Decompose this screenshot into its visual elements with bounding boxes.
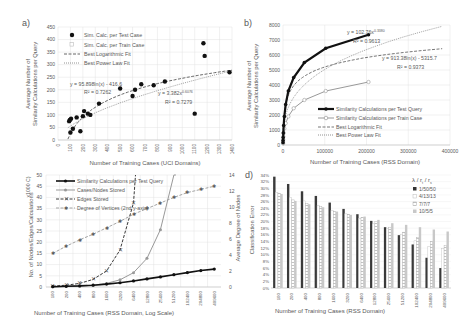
bar-10-5-5: [280, 194, 282, 288]
x-tick-label: 6400: [131, 290, 136, 300]
panel-label-d: d): [245, 170, 253, 180]
test-case-marker: [152, 83, 156, 87]
bar-4-13-13: [428, 246, 430, 288]
test-query-marker: [282, 124, 286, 128]
right-y-tick-label: 4: [229, 252, 232, 258]
bar-4-13-13: [414, 241, 416, 288]
test-case-marker: [81, 114, 85, 118]
y-tick-label: 0: [52, 137, 55, 143]
bar-10-5-5: [377, 220, 379, 288]
bar-1-50-50: [356, 214, 358, 288]
legend-label: Similarity Calculations per Test Query: [336, 106, 423, 112]
bar-10-5-5: [294, 201, 296, 288]
bar-7-7-7: [444, 245, 446, 288]
legend-label: Similarity Calculations per Test Query: [77, 178, 164, 184]
chart-b-power-r2: R² = 0.9613: [353, 38, 380, 44]
legend-label: Best Logarithmic Fit: [336, 124, 382, 130]
sim-calc-marker: [159, 275, 162, 278]
bar-1-50-50: [370, 221, 372, 288]
bar-7-7-7: [333, 212, 335, 288]
bar-7-7-7: [319, 207, 321, 288]
chart-b-log-equation: y = 913.38ln(x) - 5315.7: [382, 55, 437, 61]
chart-c-y-axis-units: x1000 C): [25, 176, 31, 197]
x-tick-label: 409600: [442, 292, 447, 307]
legend-title: λ / rt / rs: [412, 177, 432, 185]
y-tick-label: 100: [47, 112, 56, 118]
test-query-marker: [303, 61, 307, 65]
test-case-marker: [202, 54, 206, 58]
y-tick-label: 10: [36, 261, 42, 267]
bar-10-5-5: [336, 212, 338, 288]
degree-marker: ✱: [91, 231, 95, 237]
bar-4-13-13: [400, 234, 402, 288]
x-tick-label: 400: [105, 144, 110, 152]
legend-swatch: [413, 187, 417, 191]
degree-marker: ✱: [118, 218, 122, 224]
y-tick-label: 200: [47, 87, 56, 93]
degree-marker: ✱: [199, 186, 203, 192]
y-tick-label: 32%: [260, 179, 269, 184]
y-tick-label: 150: [47, 99, 56, 105]
sim-calc-marker: [186, 271, 189, 274]
y-tick-label: 1000: [269, 127, 280, 133]
train-case-marker: [292, 107, 295, 110]
train-case-marker: [324, 89, 327, 92]
bar-4-13-13: [331, 211, 333, 288]
x-tick-label: 400000: [442, 148, 459, 154]
y-tick-label: 6%: [263, 266, 269, 271]
chart-b-x-axis-title: Number of Training Cases (RSS Domain): [310, 159, 420, 165]
sim-calc-marker: [172, 273, 175, 276]
bar-7-7-7: [430, 241, 432, 288]
edges-stored-marker: ✕: [118, 247, 123, 253]
bar-7-7-7: [389, 227, 391, 288]
chart-a-x-axis-title: Number of Training Cases (UCI Domains): [89, 160, 200, 166]
legend-label: 10/5/5: [419, 208, 433, 214]
legend-label: Sim. Calc. per Test Case: [84, 32, 142, 38]
x-tick-label: 204800: [428, 292, 433, 307]
x-tick-label: 1200: [205, 144, 210, 155]
test-query-marker: [324, 46, 328, 50]
chart-c-y-axis-title: No. of Nodes/Edges/Calculations: [28, 192, 34, 277]
bar-10-5-5: [419, 227, 421, 288]
edges-stored-marker: ✕: [91, 276, 96, 282]
x-tick-label: 100000: [316, 148, 333, 154]
bar-7-7-7: [306, 203, 308, 288]
chart-a: a) 0501001502002503003504004500100200300…: [22, 18, 235, 166]
x-tick-label: 409600: [212, 290, 217, 305]
x-tick-label: 600: [130, 144, 135, 152]
bar-10-5-5: [433, 230, 435, 288]
right-y-tick-label: 14: [229, 172, 235, 178]
sim-calc-marker: [78, 284, 81, 287]
bar-4-13-13: [386, 228, 388, 288]
y-tick-label: 35: [36, 205, 42, 211]
legend-label: 4/13/13: [419, 193, 436, 199]
x-tick-label: 1100: [192, 144, 197, 154]
chart-d-y-axis-title: Classification Error: [249, 206, 255, 255]
test-query-marker: [292, 76, 296, 80]
sim-calc-marker: [118, 281, 121, 284]
sim-calc-marker: [145, 277, 148, 280]
right-y-tick-label: 10: [229, 204, 235, 210]
bar-10-5-5: [446, 232, 448, 289]
legend-marker-test-case: [70, 33, 74, 37]
x-tick-label: 51200: [171, 290, 176, 303]
bar-1-50-50: [439, 268, 441, 288]
degree-marker: ✱: [158, 200, 162, 206]
sim-calc-marker: [105, 282, 108, 285]
chart-b-legend: Similarity Calculations per Test Query S…: [318, 106, 423, 138]
y-tick-label: 18%: [260, 226, 269, 231]
legend-label: Similarity Calculations per Train Case: [336, 115, 422, 121]
degree-marker: ✱: [51, 250, 55, 256]
y-tick-label: 2%: [263, 279, 269, 284]
bar-10-5-5: [322, 207, 324, 288]
y-tick-label: 50: [36, 172, 42, 178]
test-query-marker: [287, 89, 291, 93]
legend-marker: [324, 116, 328, 120]
bar-7-7-7: [347, 214, 349, 288]
bar-7-7-7: [278, 193, 280, 288]
y-tick-label: 28%: [260, 193, 269, 198]
right-y-tick-label: 2: [229, 268, 232, 274]
train-case-marker: [303, 98, 306, 101]
bar-10-5-5: [363, 217, 365, 288]
degree-marker: ✱: [172, 194, 176, 200]
